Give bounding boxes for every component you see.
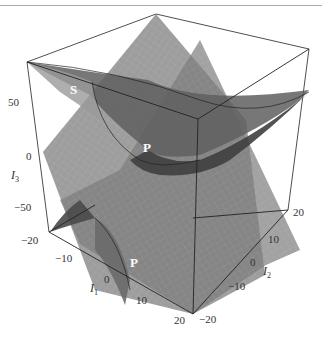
x-tick-minus20: −20 (21, 234, 38, 246)
y-tick-minus10: −10 (228, 280, 245, 292)
y-tick-20: 20 (293, 206, 304, 218)
x-axis-label: I1 (90, 281, 98, 297)
z-tick-minus50: −50 (14, 201, 31, 213)
y-tick-0: 0 (250, 256, 256, 268)
x-tick-0: 0 (104, 273, 110, 285)
surface-plot (0, 0, 322, 339)
z-tick-50: 50 (8, 96, 19, 108)
z-tick-0: 0 (26, 150, 32, 162)
x-tick-minus10: −10 (55, 252, 72, 264)
z-axis-label: I3 (11, 168, 19, 184)
y-axis-label: I2 (263, 264, 271, 280)
region-label-p-bottom: P (130, 255, 138, 271)
region-label-s: S (70, 82, 77, 98)
region-label-p-center: P (143, 140, 151, 156)
y-tick-minus20: −20 (199, 313, 216, 325)
x-tick-10: 10 (136, 294, 147, 306)
region-label-r: R (268, 135, 277, 151)
y-tick-10: 10 (268, 233, 279, 245)
x-tick-20: 20 (174, 314, 185, 326)
